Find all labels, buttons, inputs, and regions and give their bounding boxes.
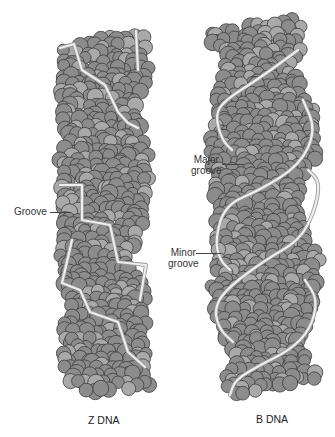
b-dna-space-filling-model	[204, 13, 327, 401]
atom-sphere	[79, 383, 93, 397]
atom-sphere	[249, 384, 262, 397]
atom-sphere	[283, 376, 298, 391]
b-dna-major-groove-label: Major groove	[191, 154, 222, 176]
atom-sphere	[93, 380, 109, 396]
atom-sphere	[236, 386, 250, 400]
minor-groove-line-1: Minor	[168, 247, 199, 258]
b-dna-caption: B DNA	[256, 413, 288, 425]
minor-groove-line-2: groove	[168, 258, 199, 269]
b-dna-minor-groove-label: Minor groove	[168, 247, 199, 269]
atom-sphere	[308, 372, 321, 385]
z-dna-caption: Z DNA	[88, 414, 120, 426]
major-groove-line-2: groove	[191, 165, 222, 176]
atom-sphere	[122, 382, 136, 396]
z-dna-groove-label: Groove	[14, 206, 47, 217]
b-dna-minor-groove-leader-line	[196, 253, 221, 254]
z-dna-groove-leader-line	[50, 212, 70, 213]
dna-figure	[0, 0, 335, 437]
b-dna-major-groove-leader-line	[222, 164, 244, 165]
major-groove-line-1: Major	[191, 154, 222, 165]
